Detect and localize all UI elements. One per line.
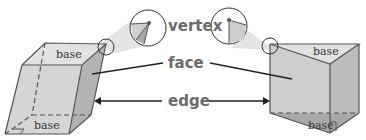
left-magnifier: [130, 10, 166, 46]
vertex-label: vertex: [168, 17, 223, 35]
prism-diagram: base base base base: [0, 0, 366, 140]
right-bottom-base-label: base: [308, 119, 334, 132]
edge-arrowhead-right: [263, 97, 270, 105]
left-top-base-label: base: [56, 48, 82, 61]
face-pointer-left: [92, 63, 163, 74]
left-prism: base base: [5, 43, 106, 134]
right-prism: base base: [270, 44, 359, 133]
face-label: face: [168, 54, 204, 72]
left-bottom-base-label: base: [34, 119, 60, 132]
right-top-base-label: base: [313, 45, 339, 58]
edge-label: edge: [168, 92, 210, 110]
